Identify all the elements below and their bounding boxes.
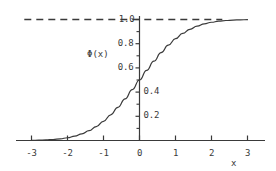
x-tick-label-0: 0	[128, 148, 152, 158]
figure: 1.0 0.8 0.6 0.4 0.2 -3 -2 -1 0 1 2 3 Φ(x…	[0, 0, 276, 171]
y-tick-label-0.2: 0.2	[144, 110, 160, 120]
y-tick-label-0.8: 0.8	[114, 38, 134, 48]
x-tick-label-neg3: -3	[20, 148, 44, 158]
y-tick-label-0.6: 0.6	[114, 62, 134, 72]
x-tick-label-neg1: -1	[92, 148, 116, 158]
plot-canvas	[0, 0, 276, 171]
y-tick-label-0.4: 0.4	[144, 86, 160, 96]
x-tick-label-1: 1	[164, 148, 188, 158]
y-tick-label-1.0: 1.0	[115, 14, 135, 24]
x-tick-label-2: 2	[200, 148, 224, 158]
x-tick-label-neg2: -2	[56, 148, 80, 158]
x-axis-title: x	[231, 158, 236, 168]
y-axis-title: Φ(x)	[87, 49, 109, 59]
x-tick-label-3: 3	[236, 148, 260, 158]
